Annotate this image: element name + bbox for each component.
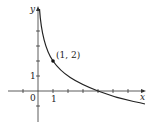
origin-label: 0 <box>30 93 36 103</box>
x-axis-label: x <box>140 92 145 102</box>
graph: y x 0 1 1 (1, 2) <box>0 0 149 128</box>
y-axis-label: y <box>29 4 36 14</box>
point-marker <box>51 59 55 63</box>
point-label: (1, 2) <box>56 50 80 60</box>
x-tick-label-1: 1 <box>51 94 57 104</box>
y-tick-label-1: 1 <box>30 71 36 81</box>
